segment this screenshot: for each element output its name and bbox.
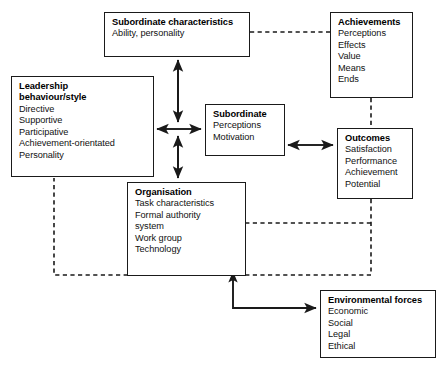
node-achievements[interactable]: Achievements Perceptions Effects Value M… [330, 12, 413, 98]
node-item: Ethical [328, 341, 429, 353]
node-item: Ability, personality [112, 28, 243, 40]
node-item: Potential [345, 179, 406, 191]
node-item: Perceptions [338, 28, 406, 40]
node-item: Legal [328, 329, 429, 341]
node-title: Achievements [338, 17, 406, 28]
node-item: Means [338, 63, 406, 75]
node-title: Subordinate characteristics [112, 17, 243, 28]
node-item: Formal authority [135, 210, 239, 222]
node-title: Environmental forces [328, 295, 429, 306]
node-item: Performance [345, 156, 406, 168]
node-item: Supportive [19, 115, 147, 127]
node-item: Work group [135, 233, 239, 245]
node-title: Organisation [135, 187, 239, 198]
node-title-line2: behaviour/style [19, 92, 147, 103]
node-title: Outcomes [345, 133, 406, 144]
node-organisation[interactable]: Organisation Task characteristics Formal… [127, 182, 246, 276]
node-item: Achievement [345, 167, 406, 179]
node-item: Personality [19, 150, 147, 162]
node-title: Subordinate [213, 109, 278, 120]
node-item: Participative [19, 127, 147, 139]
node-item: Social [328, 318, 429, 330]
diagram-canvas: Subordinate characteristics Ability, per… [0, 0, 446, 373]
node-item: Value [338, 51, 406, 63]
node-title-line1: Leadership [19, 81, 147, 92]
node-environmental-forces[interactable]: Environmental forces Economic Social Leg… [320, 290, 436, 358]
node-item: Ends [338, 74, 406, 86]
node-item: Effects [338, 40, 406, 52]
node-item: Economic [328, 306, 429, 318]
node-item: system [135, 221, 239, 233]
node-item: Satisfaction [345, 144, 406, 156]
node-item: Perceptions [213, 120, 278, 132]
node-item: Task characteristics [135, 198, 239, 210]
node-item: Achievement-orientated [19, 138, 147, 150]
node-subordinate[interactable]: Subordinate Perceptions Motivation [205, 104, 285, 156]
node-item: Technology [135, 244, 239, 256]
node-outcomes[interactable]: Outcomes Satisfaction Performance Achiev… [337, 128, 413, 199]
node-leadership-behaviour-style[interactable]: Leadership behaviour/style Directive Sup… [11, 76, 154, 177]
node-item: Motivation [213, 132, 278, 144]
node-subordinate-characteristics[interactable]: Subordinate characteristics Ability, per… [104, 12, 250, 57]
node-item: Directive [19, 104, 147, 116]
arrow-organisation-to-environmental-forces [233, 278, 316, 308]
